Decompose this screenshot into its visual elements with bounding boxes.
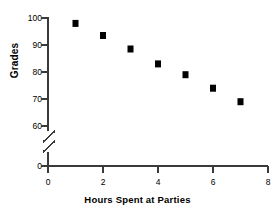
data-point [238, 98, 244, 105]
data-series [73, 20, 244, 105]
axis-break-slash-lower [43, 141, 55, 152]
data-point [128, 46, 134, 53]
scatter-chart: Grades Hours Spent at Parties 100 90 80 … [0, 0, 275, 215]
data-point [155, 60, 161, 67]
data-point [73, 20, 79, 27]
data-point [210, 85, 216, 92]
data-point [183, 71, 189, 78]
plot-area [0, 0, 275, 215]
axis-break-slash-upper [43, 131, 55, 142]
data-point [100, 32, 106, 39]
